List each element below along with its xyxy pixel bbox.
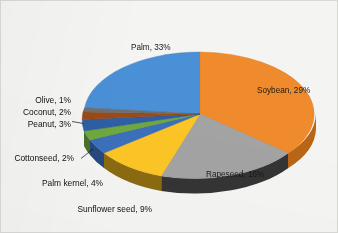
callout-label-coconut: Coconut, 2% [23,107,72,117]
leader-line-peanut [72,122,84,124]
slice-label-rapeseed: Rapeseed, 16% [206,170,264,179]
slice-label-soybean: Soybean, 29% [257,86,310,95]
callout-label-cottonseed: Cottonseed, 2% [14,153,74,163]
callout-label-sunflower-seed: Sunflower seed, 9% [78,204,153,214]
slice-label-palm: Palm, 33% [131,43,171,52]
callout-label-palm-kernel: Palm kernel, 4% [42,178,104,188]
callout-label-peanut: Peanut, 3% [28,119,72,129]
pie-chart-svg: Palm, 33% Soybean, 29% Rapeseed, 16% Oli… [0,0,338,233]
pie-slice-palm[interactable] [85,52,200,114]
callout-label-olive: Olive, 1% [35,95,71,105]
pie-chart-figure: Palm, 33% Soybean, 29% Rapeseed, 16% Oli… [0,0,338,233]
